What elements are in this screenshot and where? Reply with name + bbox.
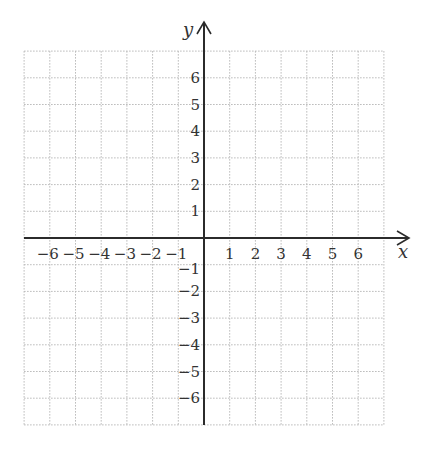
y-tick-label: 5 <box>190 96 200 114</box>
x-tick-label: 6 <box>353 245 363 263</box>
x-tick-label: 5 <box>328 245 338 263</box>
axes: x y <box>24 19 409 425</box>
y-tick-label: 4 <box>190 122 200 140</box>
y-tick-label: 3 <box>190 149 200 167</box>
y-tick-label: 1 <box>190 202 200 220</box>
y-tick-label: −3 <box>178 309 200 327</box>
x-tick-label: −2 <box>140 245 162 263</box>
x-axis-label: x <box>398 241 408 262</box>
x-tick-label: 2 <box>251 245 261 263</box>
x-tick-label: −5 <box>62 245 84 263</box>
y-tick-label: 6 <box>190 69 200 87</box>
y-tick-label: −2 <box>178 282 200 300</box>
y-tick-label: −5 <box>178 363 200 381</box>
x-tick-label: 4 <box>302 245 312 263</box>
x-tick-label: −6 <box>37 245 59 263</box>
x-tick-label: −3 <box>114 245 136 263</box>
y-tick-label: 2 <box>190 176 200 194</box>
y-tick-label: −6 <box>178 389 200 407</box>
x-tick-label: 3 <box>276 245 286 263</box>
x-tick-label: −4 <box>88 245 110 263</box>
y-tick-label: −1 <box>178 260 200 278</box>
y-axis-label: y <box>182 19 194 40</box>
coordinate-plane: x y −6−5−4−3−2−1123456 654321−1−2−3−4−5−… <box>0 0 444 451</box>
y-tick-label: −4 <box>178 336 200 354</box>
x-tick-label: 1 <box>225 245 235 263</box>
